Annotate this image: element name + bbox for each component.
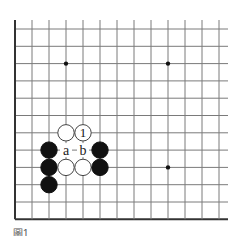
- white-stone: [58, 159, 74, 175]
- white-stone-icon: [58, 125, 74, 141]
- white-stone-icon: [75, 159, 91, 175]
- stones: 1: [41, 125, 108, 193]
- star-point-icon: [166, 61, 170, 65]
- black-stone: [41, 142, 57, 158]
- diagram-caption: 圖1: [13, 229, 29, 236]
- black-stone-icon: [41, 159, 57, 175]
- black-stone-icon: [41, 142, 57, 158]
- black-stone-icon: [41, 177, 57, 193]
- white-stone: [75, 159, 91, 175]
- black-stone: [41, 177, 57, 193]
- star-point-icon: [64, 61, 68, 65]
- star-point-icon: [166, 165, 170, 169]
- go-board: 1 ab: [0, 0, 240, 236]
- black-stone: [92, 142, 108, 158]
- point-label-a: a: [63, 143, 70, 158]
- stone-move-number: 1: [80, 125, 87, 140]
- white-stone: [58, 125, 74, 141]
- black-stone: [41, 159, 57, 175]
- point-label-b: b: [80, 143, 87, 158]
- black-stone: [92, 159, 108, 175]
- white-stone: 1: [75, 125, 91, 141]
- black-stone-icon: [92, 159, 108, 175]
- white-stone-icon: [58, 159, 74, 175]
- black-stone-icon: [92, 142, 108, 158]
